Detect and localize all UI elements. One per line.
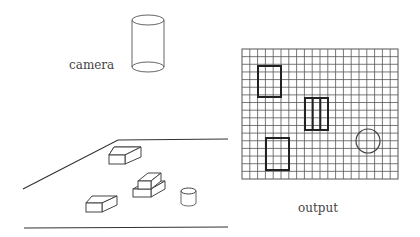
output-label: output bbox=[298, 201, 338, 215]
scene-box-1 bbox=[109, 147, 141, 164]
camera-label: camera bbox=[69, 58, 114, 72]
scene-box-2 bbox=[86, 196, 117, 212]
output-box-a bbox=[258, 66, 281, 97]
diagram-canvas: camera bbox=[0, 0, 420, 237]
scene-stacked-boxes bbox=[133, 173, 165, 197]
output-box-b bbox=[266, 138, 289, 170]
scene-cylinder bbox=[181, 188, 196, 206]
camera-icon bbox=[132, 15, 164, 72]
